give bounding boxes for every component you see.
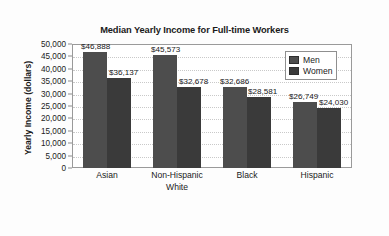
x-label-line: White	[142, 182, 212, 194]
bar-men[interactable]	[223, 87, 247, 168]
y-tick-label: 50,000	[41, 40, 66, 49]
y-tick-label: 30,000	[41, 89, 66, 98]
x-label-line: Hispanic	[282, 170, 352, 182]
chart-figure: Median Yearly Income for Full-time Worke…	[0, 0, 389, 236]
data-label-women: $24,030	[319, 98, 348, 107]
data-label-women: $28,581	[248, 87, 277, 96]
legend-item[interactable]: Men	[289, 54, 332, 65]
x-label-line: Black	[212, 170, 282, 182]
data-label-men: $46,888	[81, 42, 110, 51]
bar-men[interactable]	[293, 102, 317, 168]
bar-women[interactable]	[107, 78, 131, 168]
bar-women[interactable]	[317, 108, 341, 168]
y-tick-label: 25,000	[41, 102, 66, 111]
legend-swatch-icon	[289, 67, 299, 75]
legend-item[interactable]: Women	[289, 65, 332, 76]
legend-label: Women	[303, 66, 332, 76]
data-label-women: $32,678	[179, 77, 208, 86]
bar-men[interactable]	[153, 55, 177, 168]
y-tick-label: 40,000	[41, 64, 66, 73]
y-tick-label: 35,000	[41, 77, 66, 86]
bar-men[interactable]	[83, 52, 107, 168]
y-tick-label: 10,000	[41, 139, 66, 148]
y-axis-ticks: 50,00045,00040,00035,00030,00025,00020,0…	[0, 44, 72, 168]
chart-title: Median Yearly Income for Full-time Worke…	[0, 25, 389, 35]
x-axis-label: Non-HispanicWhite	[142, 170, 212, 193]
y-tick-label: 20,000	[41, 114, 66, 123]
x-label-line: Asian	[72, 170, 142, 182]
data-label-men: $45,573	[151, 45, 180, 54]
y-tick-label: 15,000	[41, 126, 66, 135]
x-axis-label: Asian	[72, 170, 142, 182]
data-label-men: $26,749	[289, 92, 318, 101]
bar-women[interactable]	[247, 97, 271, 168]
bar-group	[153, 44, 201, 168]
y-tick-label: 0	[61, 164, 66, 173]
y-tick-label: 45,000	[41, 52, 66, 61]
x-axis-label: Hispanic	[282, 170, 352, 182]
bar-group	[223, 44, 271, 168]
y-tick-label: 5,000	[46, 151, 67, 160]
data-label-women: $36,137	[109, 68, 138, 77]
x-axis-labels: AsianNon-HispanicWhiteBlackHispanic	[72, 170, 352, 204]
bar-group	[83, 44, 131, 168]
chart-legend: MenWomen	[285, 51, 337, 80]
data-label-men: $32,686	[220, 77, 249, 86]
bar-women[interactable]	[177, 87, 201, 168]
legend-label: Men	[303, 55, 320, 65]
x-axis-label: Black	[212, 170, 282, 182]
legend-swatch-icon	[289, 56, 299, 64]
x-label-line: Non-Hispanic	[142, 170, 212, 182]
